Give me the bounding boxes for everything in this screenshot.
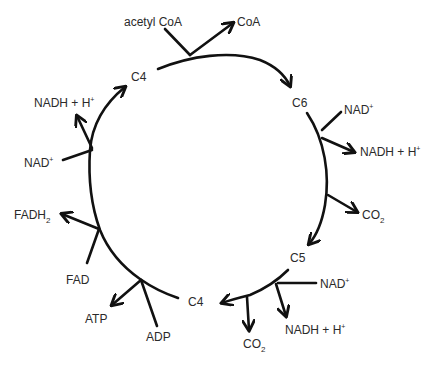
label-nad-1: NAD+: [344, 103, 373, 117]
label-coa: CoA: [237, 15, 260, 29]
cycle-arcs: [89, 55, 326, 303]
label-fadh2: FADH2: [14, 208, 51, 225]
label-atp: ATP: [85, 312, 107, 326]
label-co2-2: CO2: [243, 337, 266, 354]
label-adp: ADP: [146, 330, 171, 344]
branches: [62, 23, 357, 330]
label-acetyl-coa: acetyl CoA: [124, 15, 182, 29]
node-c6: C6: [292, 96, 308, 110]
node-c4-bottom: C4: [188, 295, 204, 309]
label-nad-2: NAD+: [320, 277, 349, 291]
labels: acetyl CoA CoA C4 C6 C5 C4 NAD+ NADH + H…: [14, 15, 420, 354]
label-co2-1: CO2: [362, 208, 385, 225]
label-nadh-1: NADH + H+: [360, 145, 420, 159]
arc-c4-to-c4: [89, 87, 178, 298]
label-fad: FAD: [66, 273, 90, 287]
arc-c4-to-c6: [158, 55, 290, 86]
label-nad-3: NAD+: [24, 156, 53, 170]
node-c5: C5: [290, 251, 306, 265]
krebs-cycle-diagram: acetyl CoA CoA C4 C6 C5 C4 NAD+ NADH + H…: [0, 0, 442, 368]
label-nadh-2: NADH + H+: [285, 323, 345, 337]
arc-c6-to-c5: [307, 113, 327, 244]
node-c4-top: C4: [131, 70, 147, 84]
label-nadh-3: NADH + H+: [34, 96, 94, 110]
